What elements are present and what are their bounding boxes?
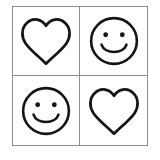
grid-cell-bottom-right[interactable]	[80, 76, 147, 145]
grid-cell-bottom-left[interactable]	[13, 76, 80, 145]
smiley-face-icon	[88, 15, 140, 67]
heart-icon	[87, 85, 141, 137]
grid-cell-top-right[interactable]	[80, 7, 147, 76]
grid-cell-top-left[interactable]	[13, 7, 80, 76]
smiley-face-icon	[20, 85, 72, 137]
icon-grid	[12, 6, 148, 146]
heart-icon	[19, 15, 73, 67]
icon-grid-canvas	[0, 0, 160, 160]
